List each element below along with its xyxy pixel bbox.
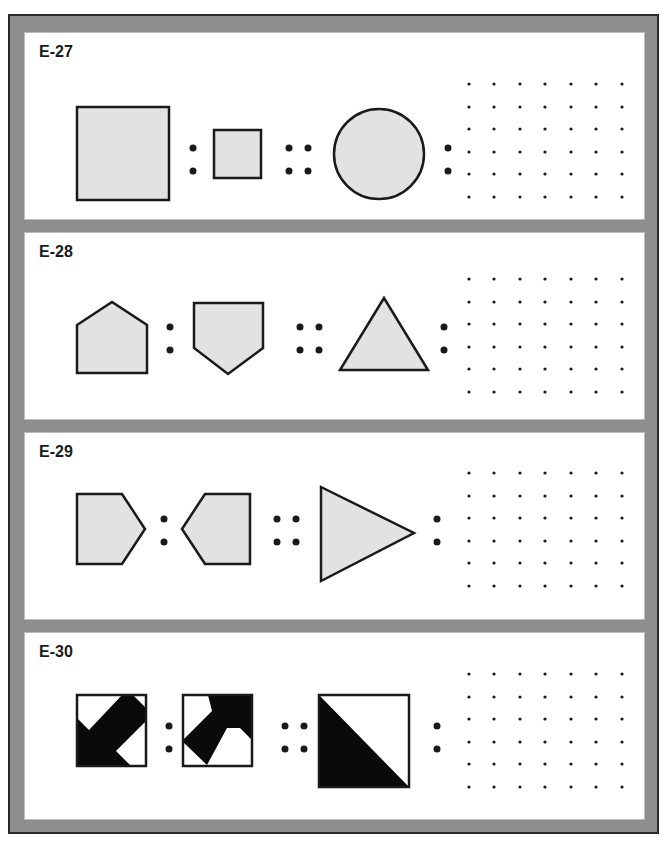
diagonal-half-square (319, 695, 409, 787)
analogy-figure (25, 233, 646, 421)
problem-panel-e29: E-29 (24, 432, 645, 620)
proportion-symbol (297, 324, 323, 354)
ratio-symbol (167, 324, 174, 354)
ratio-symbol (445, 145, 452, 175)
proportion-symbol (274, 516, 300, 546)
ratio-symbol (161, 516, 168, 546)
pentagon-point-down-shape (194, 303, 263, 374)
arrow-pattern-square-b (182, 695, 252, 766)
answer-dot-grid[interactable] (467, 277, 623, 393)
ratio-symbol (434, 516, 441, 546)
problem-panel-e28: E-28 (24, 232, 645, 420)
triangle-point-right-shape (321, 487, 414, 581)
triangle-point-up-shape (340, 298, 428, 370)
answer-dot-grid[interactable] (467, 672, 623, 788)
proportion-symbol (282, 723, 308, 753)
answer-dot-grid[interactable] (467, 82, 623, 198)
ratio-symbol (166, 723, 173, 753)
pentagon-point-up-shape (77, 302, 147, 373)
arrow-pattern-square-a (77, 695, 146, 766)
problem-panel-e27: E-27 (24, 32, 645, 220)
ratio-symbol (441, 324, 448, 354)
pentagon-point-left-shape (182, 494, 250, 564)
small-square-shape (214, 130, 261, 178)
answer-dot-grid[interactable] (467, 471, 623, 587)
circle-shape (334, 109, 424, 199)
analogy-figure (25, 433, 646, 621)
large-square-shape (77, 107, 169, 200)
ratio-symbol (434, 723, 441, 753)
worksheet-frame: E-27 E-28 (8, 14, 659, 834)
proportion-symbol (286, 145, 312, 175)
analogy-figure (25, 33, 646, 221)
analogy-figure (25, 633, 646, 821)
pentagon-point-right-shape (77, 494, 145, 564)
problem-panel-e30: E-30 (24, 632, 645, 820)
ratio-symbol (190, 145, 197, 175)
